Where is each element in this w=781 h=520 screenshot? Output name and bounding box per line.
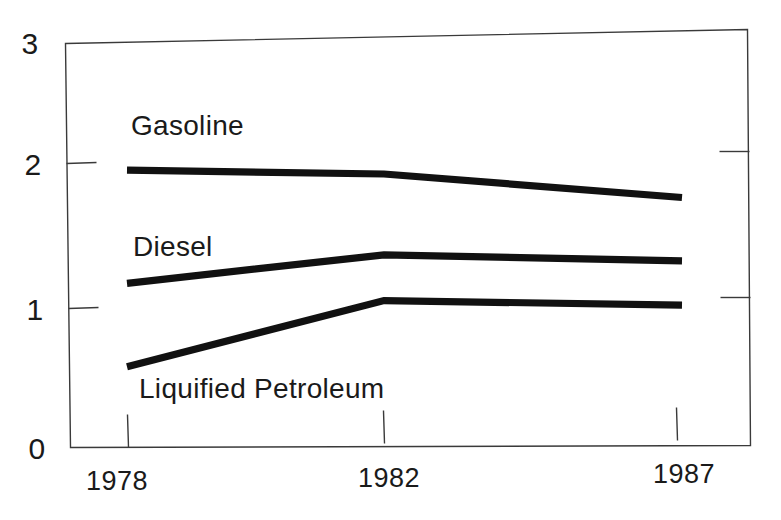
series-label-liquified-petroleum: Liquified Petroleum xyxy=(139,373,384,404)
y-axis-label-3: 3 xyxy=(21,27,38,60)
x-tick-1982 xyxy=(384,411,385,444)
series-line-liquified-petroleum xyxy=(127,301,682,367)
series-line-gasoline xyxy=(127,170,682,197)
chart-canvas: 3 2 1 0 1978 1982 1987 Gasoline Diesel L… xyxy=(0,0,781,520)
y-tick-2 xyxy=(67,163,97,164)
series-label-gasoline: Gasoline xyxy=(131,110,244,141)
y-axis-label-1: 1 xyxy=(26,293,43,326)
y-axis-label-2: 2 xyxy=(24,148,41,181)
y-tick-1 xyxy=(69,308,99,309)
series-label-diesel: Diesel xyxy=(133,231,213,262)
y-axis-ticks xyxy=(67,163,99,309)
y-axis-right-ticks xyxy=(720,152,751,298)
x-axis-label-1978: 1978 xyxy=(86,466,148,496)
x-axis-ticks xyxy=(128,408,678,448)
x-axis-tick-labels: 1978 1982 1987 xyxy=(86,459,715,496)
x-tick-1987 xyxy=(677,408,678,441)
series-group xyxy=(127,170,682,367)
x-axis-label-1982: 1982 xyxy=(358,463,420,493)
x-tick-1978 xyxy=(128,415,129,448)
x-axis-label-1987: 1987 xyxy=(653,459,715,489)
y-axis-tick-labels: 3 2 1 0 xyxy=(21,27,45,465)
line-chart: 3 2 1 0 1978 1982 1987 Gasoline Diesel L… xyxy=(0,0,781,520)
y-axis-label-0: 0 xyxy=(28,432,45,465)
